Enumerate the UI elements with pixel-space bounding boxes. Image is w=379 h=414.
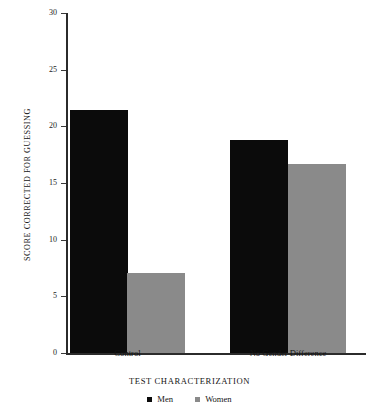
bar-chart: SCORE CORRECTED FOR GUESSING 05101520253… <box>0 0 379 414</box>
legend-swatch-icon <box>195 397 200 402</box>
y-axis-tick-label: 30 <box>49 7 57 18</box>
x-axis-title: TEST CHARACTERIZATION <box>0 376 379 386</box>
bar-women-no-gender-difference <box>288 164 346 353</box>
y-axis-tick: 10 <box>61 240 66 241</box>
y-axis-tick-label: 15 <box>49 177 57 188</box>
y-axis-tick-mark <box>61 183 66 184</box>
x-axis-label-control: Control <box>48 348 208 358</box>
y-axis-tick-label: 10 <box>49 234 57 245</box>
y-axis-tick-label: 20 <box>49 120 57 131</box>
bar-men-no-gender-difference <box>230 140 288 353</box>
y-axis-tick: 20 <box>61 126 66 127</box>
legend-label: Men <box>157 394 173 404</box>
y-axis-tick-mark <box>61 126 66 127</box>
legend-label: Women <box>205 394 232 404</box>
x-axis-label-no-gender-difference: No Gender Difference <box>208 348 368 358</box>
y-axis-line <box>66 13 68 354</box>
y-axis-tick-label: 25 <box>49 64 57 75</box>
bar-men-control <box>70 110 128 353</box>
y-axis-tick-mark <box>61 70 66 71</box>
legend-item-men[interactable]: Men <box>147 394 173 404</box>
y-axis-tick: 30 <box>61 13 66 14</box>
y-axis-tick: 25 <box>61 70 66 71</box>
y-axis-title: SCORE CORRECTED FOR GUESSING <box>23 60 32 310</box>
y-axis-tick: 15 <box>61 183 66 184</box>
y-axis-tick: 5 <box>61 296 66 297</box>
legend-swatch-icon <box>147 397 152 402</box>
y-axis-tick-mark <box>61 296 66 297</box>
y-axis-tick-label: 5 <box>53 290 57 301</box>
chart-legend: MenWomen <box>0 394 379 404</box>
plot-area: 051015202530 <box>66 13 366 353</box>
bar-women-control <box>127 273 185 353</box>
y-axis-tick-mark <box>61 240 66 241</box>
y-axis-tick-mark <box>61 13 66 14</box>
legend-item-women[interactable]: Women <box>195 394 232 404</box>
